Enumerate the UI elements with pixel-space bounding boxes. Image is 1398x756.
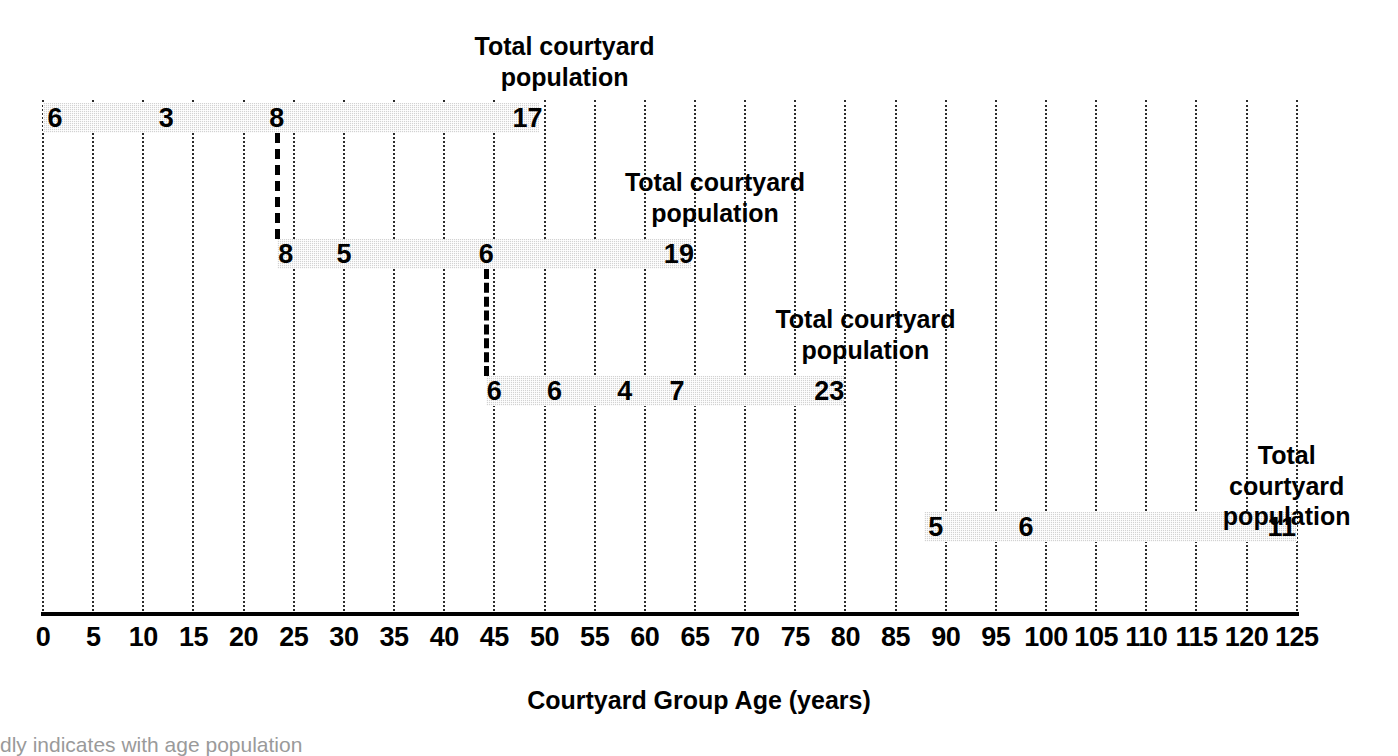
gridline — [142, 100, 144, 615]
x-tick-label: 90 — [931, 622, 960, 653]
gridline — [42, 100, 44, 615]
x-tick-label: 110 — [1125, 622, 1167, 653]
bar-segment-value: 8 — [278, 239, 293, 269]
gridline — [493, 100, 495, 615]
bar-connector-line — [275, 133, 280, 239]
x-tick-label: 75 — [781, 622, 810, 653]
total-population-annotation: Total courtyard population — [625, 167, 805, 228]
x-tick-label: 120 — [1225, 622, 1269, 653]
total-population-annotation: Total courtyard population — [474, 31, 654, 92]
chart-root: 63817856196647235611 Total courtyard pop… — [0, 0, 1398, 756]
x-tick-label: 55 — [580, 622, 609, 653]
x-tick-label: 5 — [86, 622, 101, 653]
x-tick-label: 30 — [329, 622, 358, 653]
gridline — [343, 100, 345, 615]
figure-caption-text: dly indicates with age population — [0, 737, 302, 756]
bar-segment-value: 3 — [159, 103, 174, 133]
x-tick-label: 60 — [630, 622, 659, 653]
x-tick-label: 95 — [981, 622, 1010, 653]
bar-segment-value: 23 — [814, 376, 844, 406]
bar-segment-value: 6 — [487, 376, 502, 406]
bar-segment-value: 7 — [669, 376, 684, 406]
gridline — [293, 100, 295, 615]
gridline — [393, 100, 395, 615]
bar-courtyard-group-1 — [43, 103, 539, 133]
gridline — [192, 100, 194, 615]
x-tick-label: 15 — [179, 622, 208, 653]
figure-caption: dly indicates with age population — [0, 737, 1398, 756]
bar-connector-line — [484, 269, 489, 376]
x-tick-label: 20 — [229, 622, 258, 653]
bar-segment-value: 5 — [336, 239, 351, 269]
plot-area: 63817856196647235611 Total courtyard pop… — [0, 0, 1398, 615]
bar-segment-value: 6 — [1018, 512, 1033, 542]
gridline — [594, 100, 596, 615]
x-tick-label: 65 — [680, 622, 709, 653]
x-tick-label: 105 — [1074, 622, 1118, 653]
bar-courtyard-group-3 — [486, 376, 844, 406]
bar-segment-value: 17 — [512, 103, 542, 133]
x-tick-label: 10 — [129, 622, 158, 653]
total-population-annotation: Total courtyard population — [1223, 440, 1351, 532]
x-tick-label: 115 — [1175, 622, 1217, 653]
x-tick-label: 50 — [530, 622, 559, 653]
gridline — [544, 100, 546, 615]
x-tick-label: 100 — [1024, 622, 1068, 653]
x-tick-label: 25 — [279, 622, 308, 653]
bar-segment-value: 6 — [48, 103, 63, 133]
gridline — [92, 100, 94, 615]
x-tick-label: 40 — [430, 622, 459, 653]
gridline — [243, 100, 245, 615]
x-tick-label: 45 — [480, 622, 509, 653]
bar-segment-value: 5 — [928, 512, 943, 542]
bar-segment-value: 8 — [269, 103, 284, 133]
x-tick-label: 85 — [881, 622, 910, 653]
x-axis-line — [41, 612, 1299, 616]
bar-segment-value: 6 — [547, 376, 562, 406]
x-axis-title: Courtyard Group Age (years) — [0, 686, 1398, 715]
total-population-annotation: Total courtyard population — [775, 304, 955, 365]
x-tick-label: 35 — [380, 622, 409, 653]
x-tick-label: 70 — [731, 622, 760, 653]
gridline — [443, 100, 445, 615]
x-tick-label: 0 — [36, 622, 51, 653]
bar-segment-value: 4 — [617, 376, 632, 406]
x-tick-label: 80 — [831, 622, 860, 653]
bar-segment-value: 6 — [479, 239, 494, 269]
x-tick-label: 125 — [1275, 622, 1319, 653]
bar-segment-value: 19 — [664, 239, 694, 269]
